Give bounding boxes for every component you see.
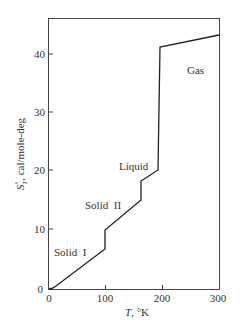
y-axis-label: S°T, cal/mole-deg [14, 117, 29, 190]
y-tick-40: 40 [34, 48, 46, 60]
x-tick-100: 100 [97, 292, 114, 304]
label-gas: Gas [187, 64, 204, 76]
entropy-chart: 0 10 20 30 40 0 100 200 300 T, °K S°T, c… [0, 0, 242, 323]
label-solid-ii: Solid II [85, 199, 121, 211]
x-tick-200: 200 [154, 292, 171, 304]
x-tick-0: 0 [46, 292, 52, 304]
x-axis-label: T, °K [125, 306, 149, 318]
x-tick-300: 300 [210, 292, 227, 304]
x-axis-ticks [106, 285, 163, 290]
y-tick-0: 0 [38, 283, 44, 295]
y-axis-ticks [49, 54, 54, 229]
y-tick-10: 10 [34, 223, 46, 235]
y-tick-20: 20 [34, 164, 46, 176]
y-tick-30: 30 [34, 106, 46, 118]
label-liquid: Liquid [119, 160, 149, 172]
label-solid-i: Solid I [54, 246, 87, 258]
